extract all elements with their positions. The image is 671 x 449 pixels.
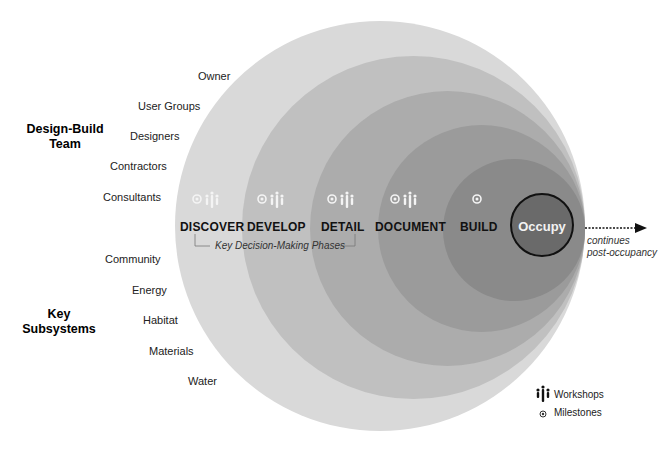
phase-label-document: DOCUMENT <box>375 220 446 234</box>
continuation-arrow <box>585 223 647 233</box>
legend-workshops-label: Workshops <box>554 389 604 400</box>
team-member-user-groups: User Groups <box>138 100 200 112</box>
discover-icons <box>191 190 225 210</box>
subsystem-materials: Materials <box>149 345 194 357</box>
subsystem-habitat: Habitat <box>143 314 178 326</box>
legend-workshops-icon <box>535 385 551 403</box>
subsystem-energy: Energy <box>132 284 167 296</box>
workshop-icon <box>205 191 218 208</box>
build-milestone-icon <box>470 192 484 212</box>
key-subsystems-heading: Key Subsystems <box>18 307 100 337</box>
decision-bracket-label: Key Decision-Making Phases <box>215 240 345 251</box>
subsystem-community: Community <box>105 253 161 265</box>
continuation-text-line1: continues <box>587 235 630 246</box>
phase-label-develop: DEVELOP <box>247 220 306 234</box>
phase-label-discover: DISCOVER <box>180 220 244 234</box>
phase-label-build: BUILD <box>460 220 498 234</box>
legend-milestones-label: Milestones <box>554 407 602 418</box>
team-member-consultants: Consultants <box>103 191 161 203</box>
team-member-contractors: Contractors <box>110 160 167 172</box>
team-member-owner: Owner <box>198 70 230 82</box>
phase-label-detail: DETAIL <box>321 220 365 234</box>
occupy-label: Occupy <box>514 219 570 234</box>
team-member-designers: Designers <box>130 130 180 142</box>
design-build-team-heading: Design-Build Team <box>20 122 110 152</box>
develop-icons <box>256 190 290 210</box>
continuation-text-line2: post-occupancy <box>587 247 657 258</box>
legend-milestones-icon <box>539 410 547 418</box>
subsystem-water: Water <box>188 375 217 387</box>
document-icons <box>389 190 423 210</box>
detail-icons <box>326 190 360 210</box>
